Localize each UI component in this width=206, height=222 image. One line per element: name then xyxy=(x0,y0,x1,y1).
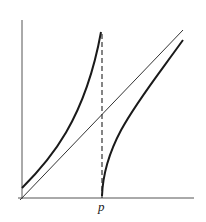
p-label: p xyxy=(97,199,105,214)
diagram-canvas: p xyxy=(0,0,206,222)
right-curve xyxy=(102,40,183,196)
left-curve xyxy=(22,32,101,188)
